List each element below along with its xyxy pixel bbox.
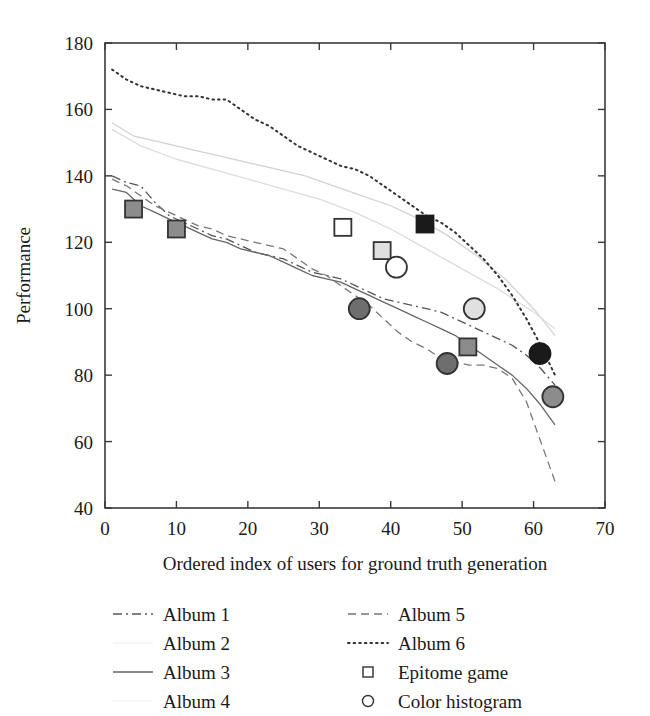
legend-label: Album 2 bbox=[163, 633, 230, 654]
marker-square-1 bbox=[168, 221, 185, 238]
performance-line-chart: 010203040506070406080100120140160180Orde… bbox=[0, 0, 650, 716]
legend-label: Album 4 bbox=[163, 691, 231, 712]
x-tick-label: 30 bbox=[310, 518, 329, 539]
legend-label: Album 3 bbox=[163, 662, 230, 683]
x-tick-label: 50 bbox=[453, 518, 472, 539]
legend-label: Album 5 bbox=[398, 604, 465, 625]
x-tick-label: 60 bbox=[524, 518, 543, 539]
legend-label: Album 6 bbox=[398, 633, 465, 654]
marker-circle-8 bbox=[464, 298, 485, 319]
marker-square-5 bbox=[459, 338, 476, 355]
marker-circle-11 bbox=[542, 386, 563, 407]
y-tick-label: 120 bbox=[65, 232, 94, 253]
y-tick-label: 160 bbox=[65, 99, 94, 120]
legend-label: Color histogram bbox=[398, 691, 522, 712]
y-axis-title: Performance bbox=[13, 227, 34, 324]
x-tick-label: 10 bbox=[167, 518, 186, 539]
marker-square-4 bbox=[417, 216, 434, 233]
marker-circle-6 bbox=[386, 257, 407, 278]
legend-label: Album 1 bbox=[163, 604, 230, 625]
marker-circle-7 bbox=[349, 298, 370, 319]
marker-square-2 bbox=[334, 219, 351, 236]
marker-circle-9 bbox=[437, 353, 458, 374]
y-tick-label: 100 bbox=[65, 299, 94, 320]
x-tick-label: 70 bbox=[596, 518, 615, 539]
legend-label: Epitome game bbox=[398, 662, 508, 683]
y-tick-label: 180 bbox=[65, 33, 94, 54]
y-tick-label: 40 bbox=[74, 498, 93, 519]
marker-square-3 bbox=[374, 242, 391, 259]
x-axis-title: Ordered index of users for ground truth … bbox=[163, 553, 548, 574]
figure-background bbox=[0, 0, 650, 716]
marker-circle-10 bbox=[530, 343, 551, 364]
x-tick-label: 20 bbox=[238, 518, 257, 539]
y-tick-label: 140 bbox=[65, 166, 94, 187]
marker-square-0 bbox=[125, 201, 142, 218]
chart-figure: 010203040506070406080100120140160180Orde… bbox=[0, 0, 650, 716]
y-tick-label: 80 bbox=[74, 365, 93, 386]
x-tick-label: 40 bbox=[381, 518, 400, 539]
y-tick-label: 60 bbox=[74, 432, 93, 453]
x-tick-label: 0 bbox=[100, 518, 110, 539]
